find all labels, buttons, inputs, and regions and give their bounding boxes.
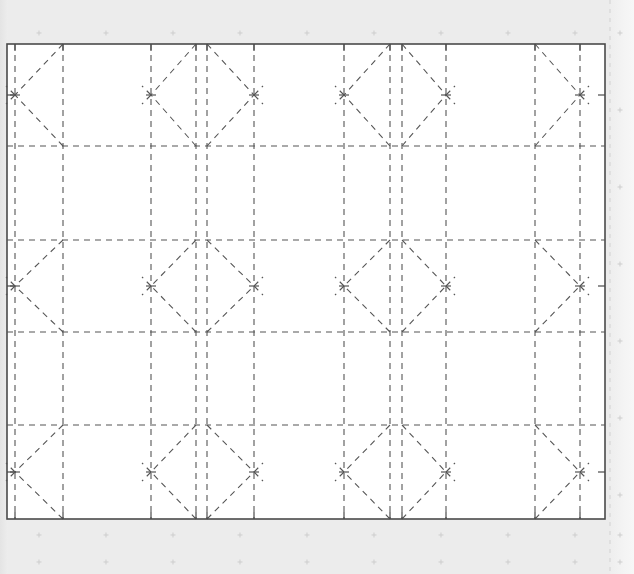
registration-mark bbox=[618, 262, 623, 267]
registration-mark bbox=[305, 31, 310, 36]
registration-mark bbox=[37, 31, 42, 36]
registration-mark bbox=[618, 560, 623, 565]
registration-mark bbox=[104, 533, 109, 538]
registration-mark bbox=[104, 31, 109, 36]
registration-mark bbox=[506, 533, 511, 538]
registration-mark bbox=[372, 533, 377, 538]
registration-mark bbox=[104, 560, 109, 565]
registration-mark bbox=[439, 31, 444, 36]
registration-mark bbox=[573, 560, 578, 565]
registration-mark bbox=[618, 185, 623, 190]
registration-mark bbox=[238, 31, 243, 36]
registration-mark bbox=[618, 31, 623, 36]
registration-mark bbox=[372, 560, 377, 565]
registration-mark bbox=[439, 533, 444, 538]
registration-mark bbox=[618, 108, 623, 113]
registration-mark bbox=[506, 560, 511, 565]
registration-mark bbox=[618, 533, 623, 538]
registration-mark bbox=[37, 560, 42, 565]
registration-mark bbox=[573, 31, 578, 36]
registration-mark bbox=[372, 31, 377, 36]
registration-mark bbox=[238, 533, 243, 538]
registration-mark bbox=[171, 533, 176, 538]
registration-mark bbox=[506, 31, 511, 36]
pattern-canvas-app: Pattern Canvas bbox=[0, 0, 634, 574]
registration-mark bbox=[238, 560, 243, 565]
registration-mark bbox=[618, 416, 623, 421]
registration-mark bbox=[37, 533, 42, 538]
registration-mark bbox=[171, 560, 176, 565]
registration-mark bbox=[439, 560, 444, 565]
registration-mark bbox=[305, 533, 310, 538]
registration-mark bbox=[573, 533, 578, 538]
registration-mark bbox=[618, 493, 623, 498]
canvas-layer[interactable] bbox=[7, 44, 605, 519]
registration-mark bbox=[171, 31, 176, 36]
canvas-rect[interactable] bbox=[7, 44, 605, 519]
registration-mark bbox=[305, 560, 310, 565]
registration-mark bbox=[618, 339, 623, 344]
pattern-stage[interactable] bbox=[0, 0, 634, 574]
